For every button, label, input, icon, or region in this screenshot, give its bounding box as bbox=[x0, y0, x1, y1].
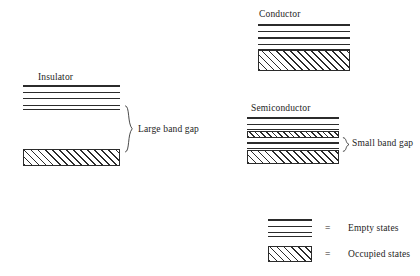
insulator-gap-label: Large band gap bbox=[138, 124, 199, 134]
semiconductor-empty-band-upper bbox=[247, 117, 339, 130]
semiconductor-gap-brace bbox=[342, 137, 351, 152]
conductor-occupied-band bbox=[258, 50, 350, 71]
band-diagram-canvas: Insulator Large band gap Conductor Semic… bbox=[0, 0, 420, 276]
legend-label-empty: Empty states bbox=[348, 223, 399, 233]
conductor-title: Conductor bbox=[259, 9, 300, 19]
semiconductor-gap-label: Small band gap bbox=[352, 138, 413, 148]
semiconductor-donor-band bbox=[247, 131, 339, 138]
insulator-title: Insulator bbox=[38, 72, 73, 82]
legend-equals-empty: = bbox=[325, 223, 330, 233]
insulator-occupied-band bbox=[23, 149, 120, 166]
semiconductor-occupied-band bbox=[247, 150, 339, 164]
legend-equals-occupied: = bbox=[325, 249, 330, 259]
insulator-gap-brace bbox=[124, 105, 135, 153]
semiconductor-empty-band-lower bbox=[247, 142, 339, 149]
legend-swatch-empty bbox=[268, 219, 312, 237]
legend-label-occupied: Occupied states bbox=[348, 249, 410, 259]
legend-swatch-occupied bbox=[268, 246, 312, 262]
semiconductor-title: Semiconductor bbox=[251, 103, 310, 113]
insulator-empty-band bbox=[23, 85, 120, 110]
conductor-empty-band bbox=[258, 24, 350, 50]
